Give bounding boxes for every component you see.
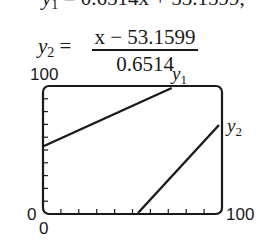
y-axis-ticks: [44, 99, 48, 201]
curve-label-y1: y1: [172, 64, 187, 86]
curve-label-y2-sub: 2: [235, 124, 242, 139]
y-min-label: 0: [27, 206, 36, 223]
x-max-label: 100: [226, 206, 254, 223]
curve-label-y1-sub: 1: [180, 72, 187, 87]
curve-label-y2: y2: [227, 116, 242, 138]
x-axis-ticks: [61, 209, 204, 213]
x-min-label: 0: [39, 220, 48, 237]
y-max-label: 100: [30, 66, 58, 83]
series-y2-line: [138, 125, 219, 213]
series-y1-line: [44, 88, 172, 146]
